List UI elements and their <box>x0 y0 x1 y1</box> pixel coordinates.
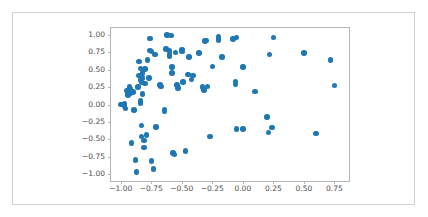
scatter-point <box>141 138 147 144</box>
scatter-point <box>234 35 240 41</box>
scatter-point <box>153 124 159 130</box>
scatter-point <box>266 130 272 136</box>
y-tick-mark <box>108 157 111 158</box>
scatter-point <box>186 54 192 60</box>
screenshot-root: −1.00−0.75−0.50−0.250.000.250.500.75 1.0… <box>0 0 428 217</box>
scatter-point <box>203 38 209 44</box>
scatter-point <box>240 126 246 132</box>
y-tick-label: 1.00 <box>88 31 105 39</box>
y-tick-mark <box>108 87 111 88</box>
y-tick-label: −0.25 <box>82 118 105 126</box>
scatter-point <box>129 140 135 146</box>
scatter-point <box>267 52 273 58</box>
scatter-point <box>233 82 239 88</box>
scatter-point <box>301 50 307 56</box>
scatter-point <box>216 34 222 40</box>
y-tick-label: 0.50 <box>88 66 105 74</box>
scatter-point <box>173 50 179 56</box>
scatter-point <box>234 126 240 132</box>
scatter-point <box>175 85 181 91</box>
scatter-point <box>179 49 185 55</box>
scatter-point <box>313 131 319 137</box>
y-tick-mark <box>108 105 111 106</box>
scatter-point <box>151 166 157 172</box>
x-tick-label: 0.00 <box>234 185 251 193</box>
scatter-point <box>271 35 277 41</box>
scatter-point <box>130 89 136 95</box>
y-tick-label: 0.00 <box>88 101 105 109</box>
y-tick-label: −0.50 <box>82 136 105 144</box>
scatter-point <box>141 145 147 151</box>
y-tick-label: −1.00 <box>82 170 105 178</box>
scatter-point <box>162 109 168 115</box>
scatter-point <box>196 50 202 56</box>
scatter-point <box>144 132 150 138</box>
scatter-point <box>139 123 145 129</box>
scatter-point <box>183 148 189 154</box>
scatter-point <box>269 125 275 131</box>
scatter-point <box>134 169 140 175</box>
x-tick-label: 0.25 <box>265 185 282 193</box>
x-tick-label: −0.25 <box>201 185 224 193</box>
x-tick-label: 0.50 <box>295 185 312 193</box>
y-tick-mark <box>108 122 111 123</box>
scatter-point <box>147 36 153 42</box>
y-tick-mark <box>108 70 111 71</box>
scatter-point <box>169 64 175 70</box>
scatter-point <box>133 157 139 163</box>
scatter-point <box>142 81 148 87</box>
scatter-point <box>180 79 186 85</box>
scatter-points-layer <box>111 28 349 181</box>
scatter-point <box>219 54 225 60</box>
scatter-point <box>172 152 178 158</box>
scatter-point <box>167 53 173 59</box>
scatter-point <box>146 75 152 81</box>
y-tick-mark <box>108 52 111 53</box>
scatter-point <box>138 100 144 106</box>
y-tick-mark <box>108 139 111 140</box>
scatter-point <box>252 89 258 95</box>
y-tick-mark <box>108 174 111 175</box>
x-tick-label: 0.75 <box>326 185 343 193</box>
scatter-point <box>190 73 196 79</box>
y-tick-mark <box>108 35 111 36</box>
scatter-plot-axes: −1.00−0.75−0.50−0.250.000.250.500.75 1.0… <box>110 27 350 182</box>
scatter-point <box>149 158 155 164</box>
x-tick-label: −0.75 <box>140 185 163 193</box>
scatter-point <box>140 91 146 97</box>
scatter-point <box>123 106 129 112</box>
scatter-point <box>240 64 246 70</box>
scatter-point <box>142 66 148 72</box>
scatter-point <box>328 57 334 63</box>
scatter-point <box>145 57 151 63</box>
x-tick-label: −1.00 <box>109 185 132 193</box>
scatter-point <box>264 114 270 120</box>
y-tick-label: −0.75 <box>82 153 105 161</box>
scatter-point <box>207 134 213 140</box>
scatter-point <box>152 52 158 58</box>
scatter-point <box>168 33 174 39</box>
scatter-point <box>158 84 164 90</box>
scatter-point <box>205 84 211 90</box>
x-tick-label: −0.50 <box>170 185 193 193</box>
scatter-point <box>136 59 142 65</box>
scatter-point <box>131 107 137 113</box>
scatter-point <box>210 64 216 70</box>
scatter-point <box>140 75 146 81</box>
y-tick-label: 0.75 <box>88 49 105 57</box>
scatter-point <box>332 83 338 89</box>
scatter-point <box>135 84 141 90</box>
scatter-point <box>169 70 175 76</box>
y-tick-label: 0.25 <box>88 83 105 91</box>
